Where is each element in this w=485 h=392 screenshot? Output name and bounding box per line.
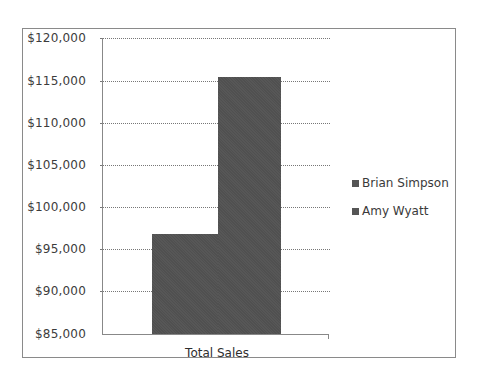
x-axis-end-tick [328, 334, 329, 339]
legend-label: Brian Simpson [362, 176, 449, 190]
x-axis-line [102, 334, 329, 335]
y-tick-label: $120,000 [14, 31, 86, 45]
y-tick-label: $110,000 [14, 116, 86, 130]
bar-amy-wyatt[interactable] [218, 77, 281, 334]
y-tick-label: $90,000 [14, 284, 86, 298]
gridline [100, 81, 330, 82]
legend-swatch-icon [352, 208, 359, 215]
legend-item-amy-wyatt[interactable]: Amy Wyatt [352, 204, 449, 218]
y-tick-label: $115,000 [14, 74, 86, 88]
x-category-label: Total Sales [150, 346, 284, 360]
y-axis-line [102, 38, 103, 335]
y-tick-label: $95,000 [14, 242, 86, 256]
legend-swatch-icon [352, 180, 359, 187]
gridline [100, 38, 330, 39]
gridline [100, 207, 330, 208]
legend-label: Amy Wyatt [362, 204, 428, 218]
y-tick-label: $85,000 [14, 327, 86, 341]
gridline [100, 123, 330, 124]
legend: Brian Simpson Amy Wyatt [352, 176, 449, 232]
legend-item-brian-simpson[interactable]: Brian Simpson [352, 176, 449, 190]
gridline [100, 165, 330, 166]
y-tick-label: $105,000 [14, 158, 86, 172]
y-tick-label: $100,000 [14, 200, 86, 214]
bar-brian-simpson[interactable] [152, 234, 218, 334]
